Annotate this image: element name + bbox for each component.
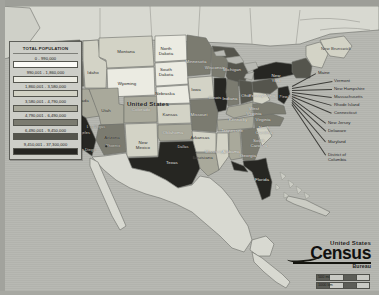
callout-label-delaware: Delaware [328, 128, 346, 133]
callout-label-maryland: Maryland [328, 139, 346, 144]
legend-panel: TOTAL POPULATION 0 - 990,000990,001 - 1,… [9, 41, 82, 160]
legend-class-1: 990,001 - 1,860,000 [13, 69, 78, 82]
city-marker-phoenix [105, 145, 107, 147]
callout-label-rhode-island: Rhode Island [334, 102, 359, 107]
scale-label-kilometers: 1000 km [318, 283, 333, 287]
census-bureau-logo: United States Census Bureau [283, 239, 371, 269]
legend-rows: 0 - 990,000990,001 - 1,860,0001,860,001 … [13, 55, 78, 155]
legend-class-5: 6,490,001 - 9,450,000 [13, 127, 78, 140]
callout-label-new-hampshire: New Hampshire [334, 86, 365, 91]
legend-swatch-1 [13, 76, 78, 83]
scale-label-miles: 500 mi [318, 275, 329, 279]
legend-swatch-3 [13, 105, 78, 112]
legend-swatch-6 [13, 148, 78, 155]
legend-swatch-5 [13, 133, 78, 140]
legend-swatch-2 [13, 90, 78, 97]
scale-bar: 500 mi 1000 km [316, 274, 370, 290]
legend-class-6: 9,450,001 - 37,300,000 [13, 141, 78, 154]
bottom-border-band [0, 291, 379, 295]
census-population-map: WashingtonOregonNevadaIdahoMontanaWyomin… [0, 0, 379, 295]
legend-class-4: 4,790,001 - 6,490,000 [13, 113, 78, 126]
callout-label-vermont: Vermont [334, 78, 350, 83]
logo-line-bureau: Bureau [283, 263, 371, 269]
city-marker-las-vegas [88, 126, 90, 128]
legend-class-2: 1,860,001 - 3,580,000 [13, 84, 78, 97]
legend-class-3: 3,580,001 - 4,790,000 [13, 98, 78, 111]
callout-label-new-jersey: New Jersey [328, 120, 350, 125]
city-marker-new-york [280, 96, 282, 98]
legend-swatch-4 [13, 119, 78, 126]
callout-label-massachusetts: Massachusetts [334, 94, 363, 99]
legend-title: TOTAL POPULATION [13, 44, 78, 54]
legend-class-0: 0 - 990,000 [13, 55, 78, 68]
callout-label-district-of-columbia: District of Columbia [328, 152, 346, 162]
city-marker-dallas [175, 146, 177, 148]
left-border-band [0, 0, 5, 295]
legend-swatch-0 [13, 61, 78, 68]
callout-label-maine: Maine [318, 70, 330, 75]
top-border-band [0, 0, 379, 6]
callout-label-connecticut: Connecticut [334, 110, 357, 115]
